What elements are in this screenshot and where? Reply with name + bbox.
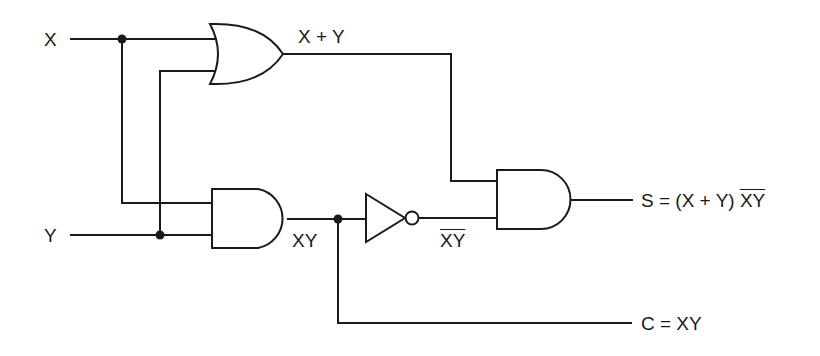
wire-x-to-and1 bbox=[122, 39, 212, 203]
junction-dot-x bbox=[118, 35, 127, 44]
inverter-bubble bbox=[406, 212, 419, 225]
sum-label-prefix: S = (X + Y) bbox=[641, 190, 740, 211]
and1-output-label: XY bbox=[292, 231, 317, 250]
and-gate-2 bbox=[497, 170, 571, 229]
sum-output-label: S = (X + Y) XY bbox=[641, 191, 765, 210]
circuit-diagram bbox=[0, 0, 820, 356]
not-output-label: XY bbox=[440, 231, 465, 250]
carry-output-label: C = XY bbox=[641, 314, 702, 333]
and-gate-1 bbox=[212, 189, 283, 248]
or-output-label: X + Y bbox=[298, 27, 345, 46]
input-label-y: Y bbox=[44, 226, 57, 245]
sum-label-overbar: XY bbox=[740, 190, 765, 211]
not-gate bbox=[366, 194, 405, 242]
junction-dot-y bbox=[156, 231, 165, 240]
wire-or-output bbox=[283, 54, 497, 181]
input-label-x: X bbox=[44, 30, 57, 49]
wire-carry bbox=[338, 219, 632, 323]
or-gate bbox=[210, 24, 283, 84]
wire-y-to-or bbox=[160, 71, 215, 235]
junction-dot-xy bbox=[334, 215, 343, 224]
